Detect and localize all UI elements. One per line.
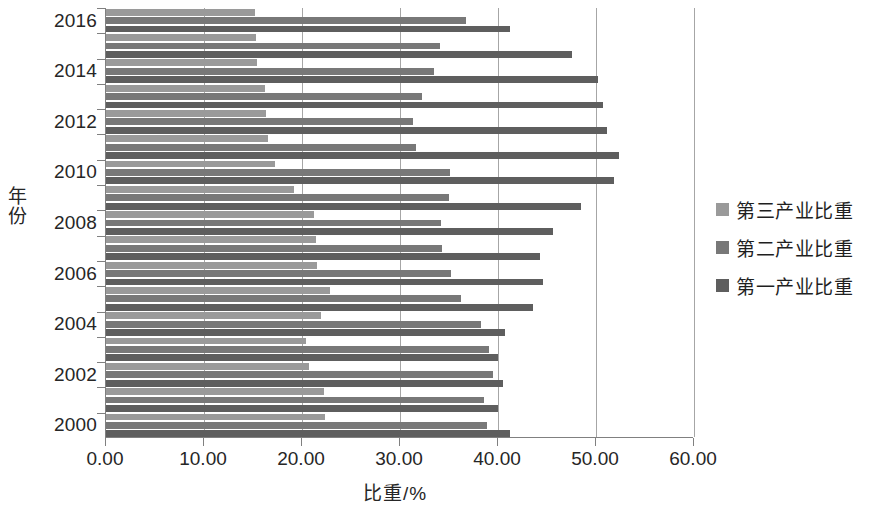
- y-axis-labels: 200020022004200620082010201220142016: [0, 0, 97, 506]
- bar: [106, 152, 619, 159]
- bar: [106, 34, 256, 41]
- bar: [106, 262, 317, 269]
- x-tick-label: 50.00: [571, 448, 619, 470]
- year-group: [106, 362, 693, 387]
- y-tick-label: 2008: [5, 212, 97, 234]
- year-group: [106, 84, 693, 109]
- x-tick: [105, 438, 106, 446]
- bar: [106, 177, 614, 184]
- y-tick: [97, 210, 105, 211]
- x-tick: [693, 438, 694, 446]
- y-tick-label: 2000: [5, 414, 97, 436]
- bar: [106, 169, 450, 176]
- legend-swatch-icon: [716, 241, 729, 254]
- year-group: [106, 134, 693, 159]
- x-tick-label: 0.00: [87, 448, 124, 470]
- y-tick: [97, 312, 105, 313]
- bar: [106, 68, 434, 75]
- bar: [106, 93, 422, 100]
- chart-legend: 第三产业比重第二产业比重第一产业比重: [716, 190, 886, 304]
- year-group: [106, 210, 693, 235]
- bar: [106, 287, 330, 294]
- bar: [106, 51, 572, 58]
- year-group: [106, 160, 693, 185]
- y-tick: [97, 362, 105, 363]
- bar: [106, 220, 441, 227]
- y-tick: [97, 286, 105, 287]
- y-tick: [97, 185, 105, 186]
- bar: [106, 397, 484, 404]
- bar: [106, 329, 505, 336]
- year-group: [106, 33, 693, 58]
- bar: [106, 346, 489, 353]
- bar: [106, 9, 255, 16]
- legend-swatch-icon: [716, 279, 729, 292]
- y-tick-label: 2010: [5, 161, 97, 183]
- bar: [106, 203, 581, 210]
- y-tick: [97, 160, 105, 161]
- y-tick-label: 2016: [5, 10, 97, 32]
- legend-item[interactable]: 第一产业比重: [716, 266, 886, 304]
- bar: [106, 211, 314, 218]
- bar: [106, 17, 466, 24]
- bar: [106, 371, 493, 378]
- bar: [106, 279, 543, 286]
- y-tick: [97, 236, 105, 237]
- legend-label: 第三产业比重: [736, 196, 853, 223]
- year-group: [106, 261, 693, 286]
- legend-item[interactable]: 第三产业比重: [716, 190, 886, 228]
- y-tick-label: 2014: [5, 60, 97, 82]
- year-group: [106, 312, 693, 337]
- x-tick: [399, 438, 400, 446]
- bar: [106, 135, 268, 142]
- y-tick: [97, 109, 105, 110]
- bar: [106, 161, 275, 168]
- bar: [106, 127, 607, 134]
- y-tick: [97, 33, 105, 34]
- bar: [106, 236, 316, 243]
- year-group: [106, 286, 693, 311]
- x-axis-title: 比重/%: [0, 478, 790, 505]
- y-tick-label: 2012: [5, 111, 97, 133]
- legend-label: 第一产业比重: [736, 272, 853, 299]
- bar: [106, 102, 603, 109]
- bar: [106, 380, 503, 387]
- bar: [106, 43, 440, 50]
- bar: [106, 253, 540, 260]
- y-tick: [97, 84, 105, 85]
- bar: [106, 363, 309, 370]
- bar-rows: [106, 8, 693, 437]
- bar: [106, 422, 487, 429]
- bar: [106, 270, 451, 277]
- bar: [106, 85, 265, 92]
- legend-label: 第二产业比重: [736, 234, 853, 261]
- y-tick-label: 2006: [5, 263, 97, 285]
- bar: [106, 118, 413, 125]
- x-tick-label: 10.00: [179, 448, 227, 470]
- year-group: [106, 337, 693, 362]
- bar: [106, 186, 294, 193]
- x-tick: [497, 438, 498, 446]
- x-tick-label: 60.00: [669, 448, 717, 470]
- x-tick-label: 30.00: [375, 448, 423, 470]
- y-tick: [97, 134, 105, 135]
- bar: [106, 194, 449, 201]
- x-tick: [595, 438, 596, 446]
- year-group: [106, 236, 693, 261]
- y-tick-label: 2004: [5, 313, 97, 335]
- bar: [106, 430, 510, 437]
- bar: [106, 110, 266, 117]
- y-tick: [97, 387, 105, 388]
- legend-item[interactable]: 第二产业比重: [716, 228, 886, 266]
- y-tick: [97, 59, 105, 60]
- year-group: [106, 8, 693, 33]
- x-tick-label: 40.00: [473, 448, 521, 470]
- bar: [106, 59, 257, 66]
- year-group: [106, 59, 693, 84]
- x-tick-label: 20.00: [277, 448, 325, 470]
- y-tick: [97, 8, 105, 9]
- x-tick: [301, 438, 302, 446]
- legend-swatch-icon: [716, 203, 729, 216]
- year-group: [106, 109, 693, 134]
- y-tick: [97, 261, 105, 262]
